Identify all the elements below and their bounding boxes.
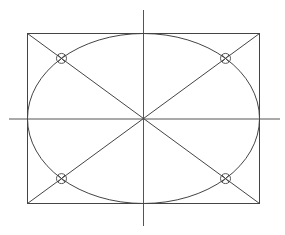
marker-top-left bbox=[56, 53, 66, 63]
marker-bottom-left bbox=[56, 174, 66, 184]
ellipse-construction-diagram bbox=[0, 0, 285, 235]
marker-top-right bbox=[221, 53, 231, 63]
marker-bottom-right bbox=[221, 174, 231, 184]
